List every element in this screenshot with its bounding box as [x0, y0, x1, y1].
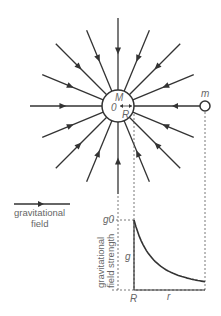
field-arrowhead [59, 103, 66, 109]
field-arrowhead [94, 149, 102, 158]
field-arrowhead [115, 47, 121, 54]
field-arrowhead [134, 54, 142, 63]
field-arrowhead [134, 149, 142, 158]
field-arrowhead [66, 82, 75, 90]
field-arrowhead [94, 54, 102, 63]
x-start-label: R [130, 293, 137, 304]
test-mass-circle [200, 101, 210, 111]
test-mass-label: m [201, 88, 209, 99]
gravitational-field-diagram: M 0 R m g0 g gravitational field strengt… [0, 0, 221, 316]
g-label: g [125, 251, 131, 262]
field-arrowhead [161, 122, 170, 130]
field-strength-curve [134, 220, 205, 282]
field-arrowhead [66, 122, 75, 130]
field-arrowhead [115, 158, 121, 165]
legend-text-2: field [31, 218, 48, 229]
field-arrowhead [161, 82, 170, 90]
legend-text-1: gravitational [14, 207, 65, 218]
y-axis-title-2: field strength [105, 234, 116, 288]
x-label: r [167, 291, 171, 302]
radius-label: R [122, 109, 129, 120]
g0-label: g0 [103, 214, 115, 225]
center-label: 0 [111, 102, 117, 113]
